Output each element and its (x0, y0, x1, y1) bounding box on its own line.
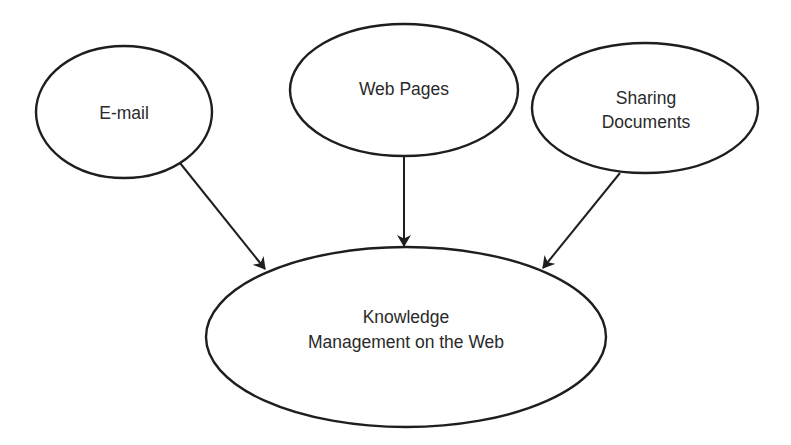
node-sharing-documents-label-line2: Documents (602, 112, 691, 132)
node-email: E-mail (36, 46, 212, 178)
edge-email-to-km (180, 163, 265, 269)
node-email-label: E-mail (99, 103, 149, 123)
node-sharing-documents: Sharing Documents (532, 43, 758, 173)
node-web-pages: Web Pages (290, 24, 518, 156)
node-sharing-documents-label-line1: Sharing (616, 88, 676, 108)
node-knowledge-management-label-line1: Knowledge (363, 307, 450, 327)
node-knowledge-management-label-line2: Management on the Web (308, 332, 504, 352)
node-web-pages-label: Web Pages (359, 79, 449, 99)
node-sharing-documents-ellipse (532, 43, 758, 173)
node-knowledge-management: Knowledge Management on the Web (206, 247, 606, 427)
edge-sharing-documents-to-km (543, 173, 620, 268)
knowledge-management-diagram: E-mail Web Pages Sharing Documents Knowl… (0, 0, 791, 445)
